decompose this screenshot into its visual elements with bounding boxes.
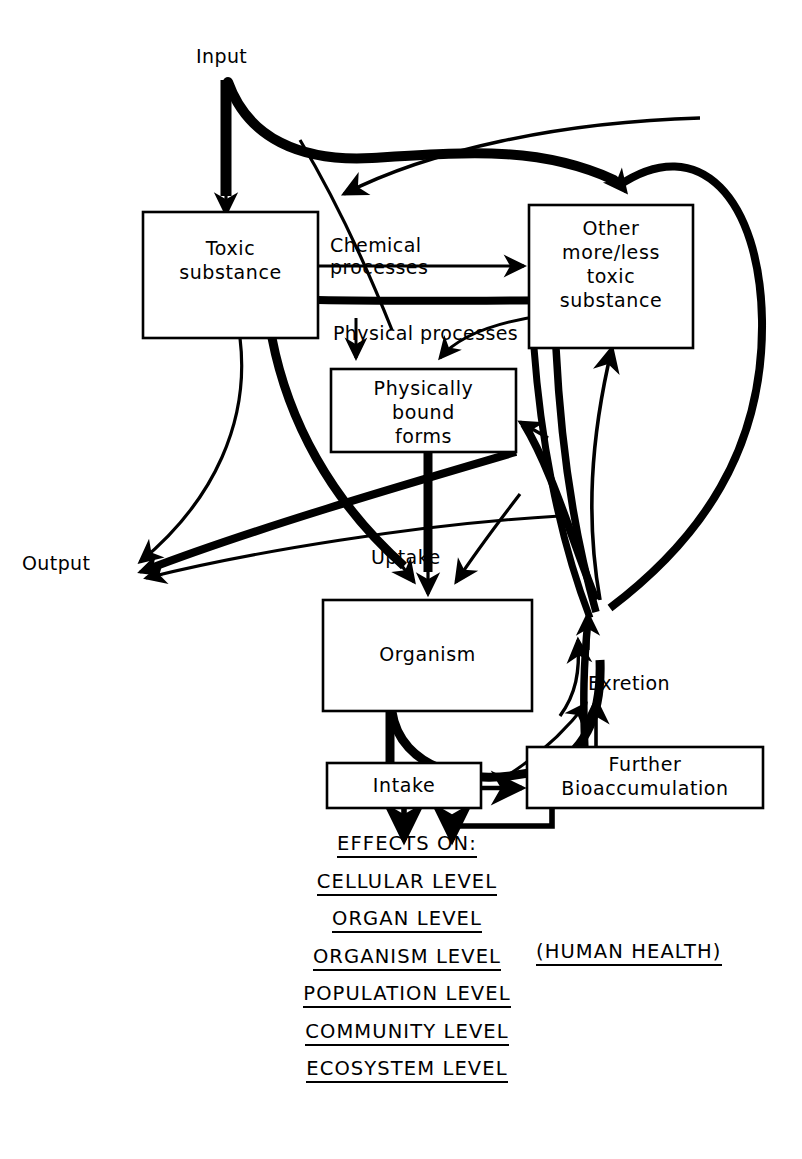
effects-item-population: POPULATION LEVEL <box>303 982 510 1008</box>
label-chemical-processes: Chemicalprocesses <box>330 234 428 278</box>
box-other-toxic-substance[interactable] <box>529 205 693 348</box>
label-input: Input <box>196 45 247 67</box>
effects-item-ecosystem: ECOSYSTEM LEVEL <box>306 1057 507 1083</box>
effects-item-cellular: CELLULAR LEVEL <box>317 870 497 896</box>
effects-item-organ: ORGAN LEVEL <box>332 907 482 933</box>
box-further-bioaccumulation[interactable] <box>527 747 763 808</box>
label-exretion: Exretion <box>588 672 670 694</box>
annotation-human-health: (HUMAN HEALTH) <box>536 940 722 966</box>
diagram-canvas: Input Output Toxicsubstance Othermore/le… <box>0 0 802 1159</box>
label-physical-processes: Physical processes <box>333 322 518 344</box>
effects-item-organism: ORGANISM LEVEL <box>313 945 501 971</box>
box-organism[interactable] <box>323 600 532 711</box>
box-physically-bound-forms[interactable] <box>331 369 516 452</box>
effects-item-community: COMMUNITY LEVEL <box>305 1020 508 1046</box>
box-toxic-substance[interactable] <box>143 212 318 338</box>
label-output: Output <box>22 552 90 574</box>
label-uptake: Uptake <box>371 546 440 568</box>
box-intake[interactable] <box>327 763 481 808</box>
effects-list: EFFECTS ON: CELLULAR LEVEL ORGAN LEVEL O… <box>262 832 552 1095</box>
effects-heading: EFFECTS ON: <box>337 832 477 858</box>
